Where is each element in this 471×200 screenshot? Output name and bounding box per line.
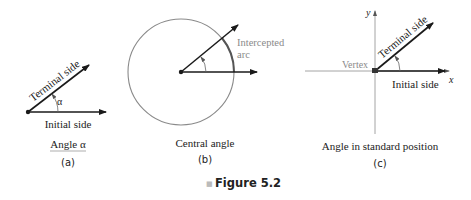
arc-label-line1: Intercepted: [237, 37, 285, 48]
panel-b-title: Central angle: [176, 137, 235, 149]
vertex-label: Vertex: [342, 59, 368, 70]
intercepted-arc-label: Intercepted arc: [237, 37, 287, 60]
panel-a-title: Angle α: [50, 138, 86, 150]
caption-text: Figure 5.2: [215, 176, 281, 190]
angle-symbol: α: [57, 96, 63, 107]
figure-5-2: Terminal side α Initial side Angle α (a)…: [0, 0, 471, 200]
initial-side-label: Initial side: [392, 78, 439, 90]
arc-label-line2: arc: [237, 49, 250, 60]
caption-bullet: ■: [206, 180, 213, 188]
panel-a-tag: (a): [61, 157, 75, 168]
terminal-side-label: Terminal side: [376, 13, 430, 61]
panel-b-tag: (b): [198, 154, 212, 165]
y-axis-label: y: [365, 7, 371, 18]
vertex-dot: [26, 110, 30, 114]
panel-a: Terminal side α Initial side Angle α (a): [26, 57, 106, 168]
x-axis-label: x: [448, 74, 454, 85]
panel-c-tag: (c): [373, 158, 386, 169]
terminal-side-label: Terminal side: [27, 57, 82, 103]
panel-c-title: Angle in standard position: [322, 140, 439, 152]
panel-c: y x Vertex Terminal side Initial side An…: [305, 7, 454, 169]
intercepted-arc: [222, 38, 234, 72]
center-dot: [179, 70, 183, 74]
vertex-marker: [372, 68, 378, 73]
panel-b: Intercepted arc Central angle (b): [128, 19, 287, 165]
angle-arc: [395, 56, 400, 71]
initial-side-label: Initial side: [45, 118, 92, 130]
angle-arc: [201, 57, 206, 72]
figure-caption: ■ Figure 5.2: [206, 176, 281, 190]
